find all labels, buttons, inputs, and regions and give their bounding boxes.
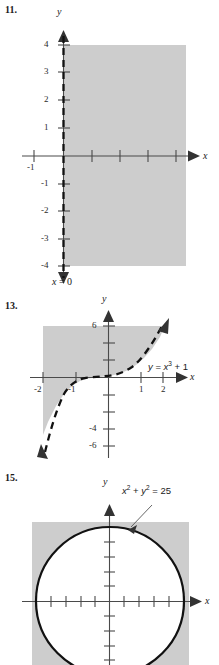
x-axis-label-13: x bbox=[190, 371, 194, 382]
y-axis-label-11: y bbox=[57, 6, 61, 17]
figure-15: 15. bbox=[0, 464, 219, 665]
x-tick-label-13: -1 bbox=[68, 384, 76, 394]
shaded-region-15 bbox=[32, 522, 189, 665]
x-axis-arrow-11 bbox=[188, 151, 200, 162]
figure-11-plot bbox=[0, 0, 219, 292]
y-tick-label-11: 1 bbox=[44, 122, 49, 132]
x-axis-label-11: x bbox=[203, 150, 207, 161]
y-tick-label-13: -4 bbox=[89, 423, 97, 433]
figure-15-plot bbox=[0, 464, 219, 665]
x-tick-label-13: -2 bbox=[34, 384, 42, 394]
y-tick-label-11: -3 bbox=[41, 233, 49, 243]
x-tick-label-11: -1 bbox=[27, 162, 35, 172]
y-axis-arrow-13 bbox=[103, 310, 114, 322]
y-tick-label-11: 3 bbox=[44, 66, 49, 76]
y-tick-label-11: 2 bbox=[44, 94, 49, 104]
equation-label-11: x = 0 bbox=[52, 276, 72, 287]
x-axis-arrow-15 bbox=[190, 596, 202, 607]
y-tick-label-13: -6 bbox=[89, 440, 97, 450]
textbook-answer-page: 11. bbox=[0, 0, 219, 665]
y-tick-label-11: -1 bbox=[41, 178, 49, 188]
x-tick-label-13: 1 bbox=[139, 384, 144, 394]
figure-13-plot bbox=[0, 292, 219, 464]
y-axis-label-13: y bbox=[102, 293, 106, 304]
equation-label-15: x2 + y2 = 25 bbox=[122, 484, 171, 496]
figure-13: 13. x y bbox=[0, 292, 219, 464]
x-axis-label-15: x bbox=[205, 595, 209, 606]
figure-11: 11. bbox=[0, 0, 219, 292]
y-tick-label-11: -4 bbox=[41, 260, 49, 270]
x-axis-arrow-13 bbox=[176, 372, 188, 383]
y-tick-label-11: 4 bbox=[44, 39, 49, 49]
y-axis-label-15: y bbox=[103, 476, 107, 487]
x-tick-label-13: 2 bbox=[161, 384, 166, 394]
y-tick-label-11: -2 bbox=[41, 205, 49, 215]
y-axis-arrow-15 bbox=[104, 504, 115, 516]
y-tick-label-13: 6 bbox=[92, 320, 97, 330]
equation-label-13: y = x3 + 1 bbox=[148, 360, 188, 372]
shaded-region-13 bbox=[43, 325, 165, 435]
